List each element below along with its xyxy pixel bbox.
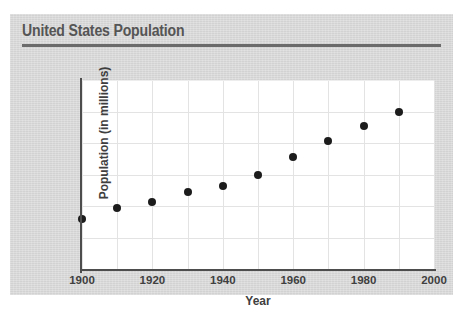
gridline-horizontal (82, 143, 434, 144)
title-block: United States Population (22, 22, 441, 47)
x-tick-label: 1980 (339, 274, 389, 286)
gridline-horizontal (82, 206, 434, 207)
page-title: United States Population (22, 22, 391, 40)
data-point (254, 171, 262, 179)
screenshot-root: United States Population 050100150200250… (0, 0, 462, 312)
x-tick-label: 1960 (268, 274, 318, 286)
x-axis-line (80, 269, 436, 271)
plot-area (82, 80, 434, 269)
x-tick-label: 1920 (127, 274, 177, 286)
y-axis-line (80, 78, 82, 273)
data-point (395, 108, 403, 116)
gridline-vertical (434, 80, 435, 269)
title-divider (22, 44, 441, 47)
data-point (184, 188, 192, 196)
data-point (360, 122, 368, 130)
gridline-horizontal (82, 238, 434, 239)
gridline-horizontal (82, 80, 434, 81)
gridline-horizontal (82, 112, 434, 113)
data-point (113, 204, 121, 212)
data-point (219, 182, 227, 190)
x-tick-label: 2000 (409, 274, 459, 286)
x-tick-label: 1940 (198, 274, 248, 286)
x-tick-label: 1900 (57, 274, 107, 286)
data-point (289, 153, 297, 161)
y-axis-label: Population (in millions) (97, 53, 111, 213)
chart-card: United States Population 050100150200250… (10, 14, 453, 295)
x-axis-label: Year (82, 294, 434, 308)
